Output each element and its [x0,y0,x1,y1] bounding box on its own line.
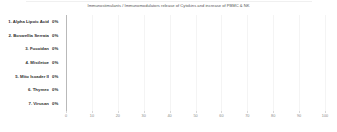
bar-track [66,32,337,40]
bar-track [66,45,337,53]
category-label: 6. Thymex [0,87,49,93]
bar-value-label: 0% [52,46,66,52]
bar-track [66,73,337,81]
bar-value-label: 0% [52,87,66,93]
x-axis-tick [325,111,326,113]
bar-value-label: 0% [52,101,66,107]
bar-track [66,100,337,108]
x-axis-tick-label: 60 [219,114,223,119]
bar-value-label: 0% [52,74,66,80]
bar-track [66,59,337,67]
x-axis: 0102030405060708090100 [66,111,325,121]
x-axis-tick [299,111,300,113]
bar-value-label: 0% [52,60,66,66]
bar-track [66,86,337,94]
x-axis-tick-label: 10 [90,114,94,119]
x-axis-tick-label: 100 [322,114,328,119]
bar-value-label: 0% [52,19,66,25]
x-axis-tick-label: 0 [65,114,67,119]
x-axis-tick-label: 30 [142,114,146,119]
x-axis-tick-label: 40 [167,114,171,119]
category-label: 4. Mistletoe [0,60,49,66]
x-axis-tick [92,111,93,113]
x-axis-tick [66,111,67,113]
top-divider [26,1,312,2]
category-label: 5. Mito Isoader II [0,74,49,80]
category-label: 3. Fucoidan [0,46,49,52]
x-axis-tick [144,111,145,113]
bar-track [66,18,337,26]
x-axis-tick-label: 20 [116,114,120,119]
x-axis-tick [118,111,119,113]
bar-chart: Immunostimulants / Immunomodulators rele… [0,0,337,132]
x-axis-tick [221,111,222,113]
x-axis-tick [170,111,171,113]
category-label: 1. Alpha Lipoic Acid [0,19,49,25]
category-label: 7. Virusan [0,101,49,107]
x-axis-tick-label: 80 [271,114,275,119]
x-axis-tick [196,111,197,113]
bar-value-label: 0% [52,33,66,39]
category-rows: 1. Alpha Lipoic Acid0%2. Boswellia Serra… [0,15,337,111]
x-axis-tick-label: 50 [193,114,197,119]
category-label: 2. Boswellia Serrata [0,33,49,39]
chart-title: Immunostimulants / Immunomodulators rele… [0,3,337,9]
chart-row: 2. Boswellia Serrata0% [0,29,337,43]
chart-row: 3. Fucoidan0% [0,42,337,56]
x-axis-tick-label: 90 [297,114,301,119]
chart-row: 5. Mito Isoader II0% [0,70,337,84]
chart-row: 7. Virusan0% [0,97,337,111]
x-axis-tick [247,111,248,113]
chart-row: 1. Alpha Lipoic Acid0% [0,15,337,29]
chart-row: 6. Thymex0% [0,84,337,98]
chart-row: 4. Mistletoe0% [0,56,337,70]
x-axis-tick-label: 70 [245,114,249,119]
x-axis-tick [273,111,274,113]
